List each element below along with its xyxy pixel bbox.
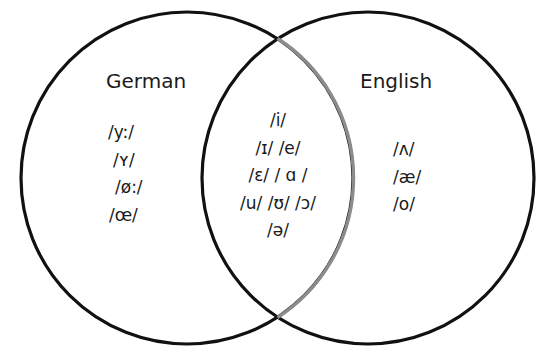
german-only-list: /y:/ /ʏ/ /ø:/ /œ/: [108, 119, 143, 229]
german-phoneme: /œ/: [108, 202, 143, 230]
shared-phoneme-line: /i/: [218, 107, 338, 135]
shared-phoneme-line: /u/ /ʊ/ /ɔ/: [218, 190, 338, 218]
shared-list: /i/ /ɪ/ /e/ /ɛ/ / ɑ / /u/ /ʊ/ /ɔ/ /ə/: [218, 107, 338, 245]
shared-phoneme-line: /ɛ/ / ɑ /: [218, 162, 338, 190]
shared-phoneme-line: /ə/: [218, 217, 338, 245]
german-phoneme: /y:/: [108, 119, 143, 147]
german-set-label: German: [106, 71, 186, 91]
german-phoneme: /ø:/: [108, 174, 143, 202]
english-only-list: /ʌ/ /æ/ /o/: [393, 136, 421, 219]
german-phoneme: /ʏ/: [108, 147, 143, 175]
english-phoneme: /o/: [393, 191, 421, 219]
english-phoneme: /æ/: [393, 164, 421, 192]
english-set-label: English: [360, 71, 432, 91]
shared-phoneme-line: /ɪ/ /e/: [218, 135, 338, 163]
english-phoneme: /ʌ/: [393, 136, 421, 164]
